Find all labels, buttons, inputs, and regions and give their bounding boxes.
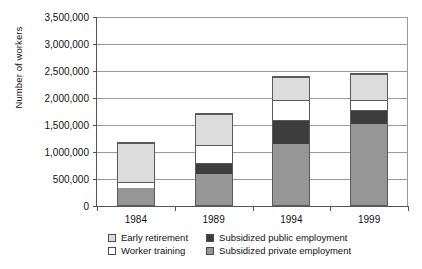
gridline xyxy=(97,71,408,72)
gridline xyxy=(97,44,408,45)
y-axis-tick-label: 500,000 xyxy=(53,174,89,185)
y-axis-tick xyxy=(93,125,97,126)
y-axis-tick xyxy=(93,17,97,18)
legend-label: Subsidized private employment xyxy=(219,245,351,256)
plot-border-right xyxy=(407,17,408,206)
bar-segment[interactable] xyxy=(351,100,387,110)
bar-chart: Number of workers 0500,0001,000,0001,500… xyxy=(0,0,422,269)
legend-item[interactable]: Subsidized private employment xyxy=(206,245,351,256)
y-axis-tick-label: 2,500,000 xyxy=(45,66,90,77)
legend-swatch-icon xyxy=(108,247,116,255)
bar-segment[interactable] xyxy=(118,143,154,181)
y-axis-tick xyxy=(93,44,97,45)
y-axis-tick-label: 3,000,000 xyxy=(45,39,90,50)
x-axis-tick xyxy=(97,206,98,211)
bar-segment[interactable] xyxy=(351,74,387,100)
y-axis-tick-label: 2,000,000 xyxy=(45,93,90,104)
y-axis-tick xyxy=(93,179,97,180)
legend-swatch-icon xyxy=(206,234,214,242)
bar-segment[interactable] xyxy=(196,114,232,145)
y-axis-tick-label: 3,500,000 xyxy=(45,12,90,23)
bar-segment[interactable] xyxy=(273,77,309,100)
x-axis-tick xyxy=(330,206,331,211)
x-axis-tick-label: 1989 xyxy=(203,214,225,225)
bar-segment[interactable] xyxy=(273,144,309,205)
legend-label: Early retirement xyxy=(121,232,188,243)
bar-segment[interactable] xyxy=(273,100,309,120)
bar-segment[interactable] xyxy=(196,145,232,163)
bar-segment[interactable] xyxy=(351,124,387,205)
bar-1989[interactable] xyxy=(195,113,233,206)
legend-item[interactable]: Early retirement xyxy=(108,232,188,243)
x-axis-tick xyxy=(175,206,176,211)
x-axis-tick-label: 1994 xyxy=(280,214,302,225)
gridline xyxy=(97,17,408,18)
legend-item[interactable]: Subsidized public employment xyxy=(206,232,351,243)
legend-swatch-icon xyxy=(206,247,214,255)
x-axis-tick-label: 1984 xyxy=(125,214,147,225)
legend-swatch-icon xyxy=(108,234,116,242)
y-axis-tick xyxy=(93,71,97,72)
x-axis-tick xyxy=(408,206,409,211)
x-axis-tick xyxy=(253,206,254,211)
bar-1984[interactable] xyxy=(117,142,155,206)
bar-segment[interactable] xyxy=(273,120,309,144)
legend-label: Worker training xyxy=(121,245,185,256)
bar-1999[interactable] xyxy=(350,73,388,206)
y-axis-tick xyxy=(93,152,97,153)
bar-segment[interactable] xyxy=(118,188,154,205)
y-axis-title: Number of workers xyxy=(13,0,24,138)
y-axis-tick-label: 1,500,000 xyxy=(45,120,90,131)
x-axis-tick-label: 1999 xyxy=(358,214,380,225)
plot-area: 0500,0001,000,0001,500,0002,000,0002,500… xyxy=(96,17,408,207)
bar-segment[interactable] xyxy=(351,110,387,125)
chart-legend: Early retirementSubsidized public employ… xyxy=(108,232,351,256)
legend-label: Subsidized public employment xyxy=(219,232,347,243)
bar-segment[interactable] xyxy=(196,163,232,174)
y-axis-tick-label: 0 xyxy=(83,201,89,212)
y-axis-tick-label: 1,000,000 xyxy=(45,147,90,158)
bar-segment[interactable] xyxy=(196,174,232,205)
y-axis-tick xyxy=(93,98,97,99)
legend-item[interactable]: Worker training xyxy=(108,245,188,256)
bar-1994[interactable] xyxy=(272,76,310,206)
